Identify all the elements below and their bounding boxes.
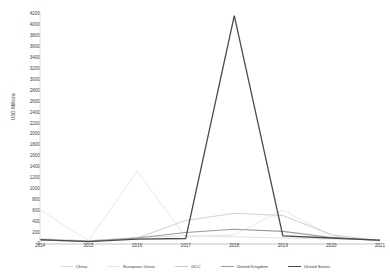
- y-axis-tick: 1200: [14, 176, 40, 181]
- legend-color-swatch: [175, 266, 188, 267]
- legend-label: GCC: [191, 264, 201, 269]
- y-axis-tick: 3000: [14, 77, 40, 82]
- legend-item[interactable]: United Kingdom: [221, 264, 268, 269]
- y-axis-tick: 200: [14, 231, 40, 236]
- x-axis-tick: 2016: [132, 243, 142, 248]
- legend-color-swatch: [107, 266, 120, 267]
- y-axis-tick: 2400: [14, 110, 40, 115]
- x-axis-tick: 2014: [35, 243, 45, 248]
- y-axis-tick: 3200: [14, 66, 40, 71]
- y-axis-tick-labels: 0200400600800100012001400160018002000220…: [14, 0, 40, 279]
- legend-item[interactable]: China: [60, 264, 87, 269]
- y-axis-tick: 1400: [14, 165, 40, 170]
- y-axis-tick: 800: [14, 198, 40, 203]
- line-chart: USD Millions 020040060080010001200140016…: [0, 0, 390, 279]
- series-line: [40, 171, 380, 241]
- legend-label: China: [76, 264, 87, 269]
- x-axis-tick: 2020: [326, 243, 336, 248]
- y-axis-tick: 1000: [14, 187, 40, 192]
- legend-label: United Kingdom: [237, 264, 268, 269]
- y-axis-tick: 400: [14, 220, 40, 225]
- y-axis-tick: 1800: [14, 143, 40, 148]
- x-axis-tick: 2017: [181, 243, 191, 248]
- x-axis-tick: 2015: [83, 243, 93, 248]
- y-axis-tick: 4000: [14, 23, 40, 28]
- legend-color-swatch: [60, 266, 73, 267]
- x-axis-tick-labels: 20142015201620172018201920202021: [40, 243, 380, 255]
- x-axis-tick: 2018: [229, 243, 239, 248]
- legend-item[interactable]: European Union: [107, 264, 155, 269]
- y-axis-tick: 2600: [14, 99, 40, 104]
- plot-area: [40, 14, 380, 244]
- legend-color-swatch: [221, 266, 234, 267]
- y-axis-tick: 4200: [14, 12, 40, 17]
- y-axis-tick: 3400: [14, 56, 40, 61]
- x-axis-tick: 2021: [375, 243, 385, 248]
- y-axis-tick: 2200: [14, 121, 40, 126]
- y-axis-tick: 2000: [14, 132, 40, 137]
- legend-item[interactable]: GCC: [175, 264, 201, 269]
- series-line: [40, 16, 380, 242]
- legend-label: United States: [304, 264, 330, 269]
- legend-label: European Union: [123, 264, 155, 269]
- series-canvas: [40, 14, 380, 244]
- y-axis-tick: 3800: [14, 34, 40, 39]
- legend-color-swatch: [288, 266, 301, 267]
- legend-item[interactable]: United States: [288, 264, 330, 269]
- y-axis-tick: 600: [14, 209, 40, 214]
- y-axis-tick: 2800: [14, 88, 40, 93]
- chart-legend: ChinaEuropean UnionGCCUnited KingdomUnit…: [0, 259, 390, 273]
- y-axis-tick: 1600: [14, 154, 40, 159]
- x-axis-tick: 2019: [278, 243, 288, 248]
- y-axis-tick: 3600: [14, 45, 40, 50]
